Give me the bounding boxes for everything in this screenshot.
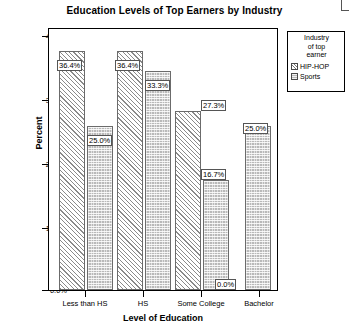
plot-area: 36.4% 25.0% 36.4% 33.3% 27.3% 16.7% 0.0%…: [48, 28, 278, 291]
bar-hs-hiphop[interactable]: [117, 51, 143, 290]
legend-title-line-2: of top: [291, 43, 342, 52]
data-label-bachelor-hiphop: 0.0%: [215, 279, 236, 290]
x-axis-title: Level of Education: [48, 313, 278, 323]
legend-title-line-3: earner: [291, 51, 342, 60]
data-label-some-college-sports: 16.7%: [201, 169, 226, 180]
legend-swatch-sports-icon: [291, 73, 298, 80]
x-tick-mark-bachelor: [259, 291, 260, 297]
data-label-bachelor-sports: 25.0%: [243, 123, 268, 134]
data-label-less-than-hs-sports: 25.0%: [87, 135, 112, 146]
data-label-less-than-hs-hiphop: 36.4%: [57, 60, 82, 71]
scan-artifact-top-right: [341, 0, 342, 10]
bar-less-than-hs-sports[interactable]: [87, 126, 113, 290]
legend-label-hiphop: HIP-HOP: [300, 63, 329, 70]
x-tick-mark-less-than-hs: [85, 291, 86, 297]
legend-item-hiphop[interactable]: HIP-HOP: [291, 62, 342, 71]
legend-title-line-1: Industry: [291, 34, 342, 43]
bar-less-than-hs-hiphop[interactable]: [59, 51, 85, 290]
legend-item-sports[interactable]: Sports: [291, 72, 342, 81]
legend-title: Industry of top earner: [291, 34, 342, 60]
bar-some-college-sports[interactable]: [203, 180, 229, 290]
data-label-some-college-hiphop: 27.3%: [201, 100, 226, 111]
bar-bachelor-sports[interactable]: [245, 126, 271, 290]
chart-page: Education Levels of Top Earners by Indus…: [0, 0, 349, 330]
legend-swatch-hiphop-icon: [291, 63, 298, 70]
page-title: Education Levels of Top Earners by Indus…: [0, 5, 349, 16]
bar-hs-sports[interactable]: [145, 71, 171, 290]
plot-inner: 36.4% 25.0% 36.4% 33.3% 27.3% 16.7% 0.0%…: [49, 29, 277, 290]
scan-artifact-right: [341, 10, 349, 11]
bar-some-college-hiphop[interactable]: [175, 111, 201, 290]
x-cat-label-some-college: Some College: [172, 299, 230, 308]
data-label-hs-sports: 33.3%: [145, 80, 170, 91]
x-cat-label-less-than-hs: Less than HS: [56, 299, 114, 308]
data-label-hs-hiphop: 36.4%: [115, 60, 140, 71]
x-cat-label-hs: HS: [114, 299, 172, 308]
legend-label-sports: Sports: [300, 73, 320, 80]
x-tick-mark-hs: [143, 291, 144, 297]
legend: Industry of top earner HIP-HOP Sports: [287, 31, 345, 92]
x-tick-mark-some-college: [201, 291, 202, 297]
x-cat-label-bachelor: Bachelor: [230, 299, 288, 308]
